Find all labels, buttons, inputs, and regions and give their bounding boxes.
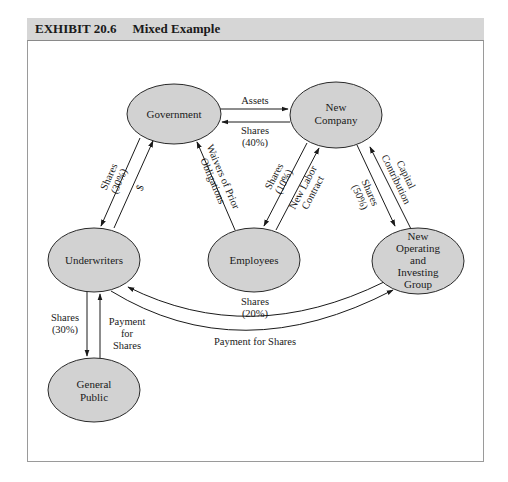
general-public-label-2: Public: [80, 391, 108, 403]
payment-public-label-1: Payment: [109, 316, 146, 327]
payment-public-label-3: Shares: [113, 340, 141, 351]
payment-public-label-2: for: [121, 328, 134, 339]
public-shares-30-label-2: (30%): [52, 324, 79, 336]
public-shares-30-label-1: Shares: [51, 312, 79, 323]
shares-40-label-1: Shares: [241, 125, 269, 136]
payment-group-label: Payment for Shares: [214, 336, 296, 347]
node-general-public: [48, 358, 140, 422]
flow-diagram: Government New Company Underwriters Empl…: [0, 0, 508, 482]
employees-label: Employees: [230, 254, 279, 266]
group-label-3: and: [410, 254, 426, 266]
government-label: Government: [147, 108, 202, 120]
assets-label: Assets: [241, 95, 268, 106]
shares-40-label-2: (40%): [242, 137, 269, 149]
new-company-label-1: New: [326, 101, 347, 113]
group-label-5: Group: [404, 278, 433, 290]
shares-20-label-1: Shares: [241, 296, 269, 307]
general-public-label-1: General: [77, 378, 112, 390]
group-label-4: Investing: [398, 266, 439, 278]
underwriters-label: Underwriters: [65, 254, 123, 266]
group-label-1: New: [408, 230, 429, 242]
dollar-label: $: [134, 183, 146, 192]
new-company-label-2: Company: [315, 114, 358, 126]
group-label-2: Operating: [396, 242, 440, 254]
shares-20-label-2: (20%): [242, 308, 269, 320]
